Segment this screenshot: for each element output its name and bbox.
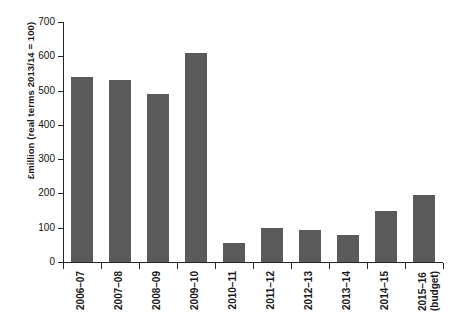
bar <box>337 235 359 262</box>
x-axis-tick <box>253 263 254 269</box>
y-axis-tick-label: 700 <box>15 17 55 27</box>
x-axis-label: 2014–15 <box>379 271 393 333</box>
x-axis-tick <box>329 263 330 269</box>
bar <box>413 195 435 262</box>
x-axis-label: 2009–10 <box>189 271 203 333</box>
x-axis-label: 2013–14 <box>341 271 355 333</box>
y-axis-tick <box>58 125 64 126</box>
bar <box>375 211 397 262</box>
y-axis-tick <box>58 91 64 92</box>
x-axis-tick <box>291 263 292 269</box>
bar <box>261 228 283 262</box>
x-axis-label-text: 2012–13 <box>303 271 315 310</box>
x-axis-tick <box>215 263 216 269</box>
x-axis-tick <box>139 263 140 269</box>
y-axis-tick-label: 300 <box>15 154 55 164</box>
x-axis-label-text: 2015–16(budget) <box>417 271 441 311</box>
x-axis-tick <box>177 263 178 269</box>
y-axis-tick <box>58 56 64 57</box>
bar <box>71 77 93 262</box>
x-axis-label: 2008–09 <box>151 271 165 333</box>
x-axis-label-text: 2010–11 <box>227 271 239 309</box>
bar <box>223 243 245 262</box>
x-axis-label-text: 2014–15 <box>379 271 391 310</box>
x-axis-tick <box>367 263 368 269</box>
y-axis-title: £million (real terms 2013/14 = 100) <box>25 1 36 201</box>
x-axis-label-text: 2009–10 <box>189 271 201 310</box>
x-axis-label-text: 2008–09 <box>151 271 163 310</box>
x-axis-label: 2007–08 <box>113 271 127 333</box>
bar <box>185 53 207 262</box>
x-axis-label: 2015–16(budget) <box>417 271 431 333</box>
y-axis-tick-label: 100 <box>15 223 55 233</box>
x-axis-label-text: 2006–07 <box>75 271 87 310</box>
x-axis-tick <box>101 263 102 269</box>
x-axis-label-text: 2013–14 <box>341 271 353 310</box>
y-axis-tick <box>58 159 64 160</box>
plot-area: 7006005004003002001000 2006–072007–08200… <box>63 22 443 262</box>
x-axis-tick <box>405 263 406 269</box>
figure-caption <box>12 325 432 333</box>
x-axis-label-text: 2011–12 <box>265 271 277 309</box>
bar <box>147 94 169 262</box>
y-axis-tick-label: 500 <box>15 86 55 96</box>
x-axis-tick <box>443 263 444 269</box>
bar <box>109 80 131 262</box>
x-axis-label: 2011–12 <box>265 271 279 333</box>
y-axis-tick-label: 400 <box>15 120 55 130</box>
bar-chart-figure: £million (real terms 2013/14 = 100) 7006… <box>0 0 451 333</box>
x-axis-label-text: 2007–08 <box>113 271 125 310</box>
x-axis-label: 2012–13 <box>303 271 317 333</box>
y-axis-tick <box>58 22 64 23</box>
x-axis-tick <box>63 263 64 269</box>
y-axis-tick <box>58 193 64 194</box>
y-axis-tick-label: 0 <box>15 257 55 267</box>
bar <box>299 230 321 262</box>
x-axis-label: 2010–11 <box>227 271 241 333</box>
x-axis-label-sublabel: (budget) <box>429 271 441 311</box>
x-axis-label: 2006–07 <box>75 271 89 333</box>
y-axis-tick-label: 600 <box>15 51 55 61</box>
y-axis-tick <box>58 228 64 229</box>
y-axis-tick-label: 200 <box>15 188 55 198</box>
